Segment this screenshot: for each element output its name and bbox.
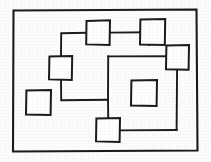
connector-left-loop	[61, 33, 86, 57]
square-top-center	[86, 20, 110, 45]
square-lower-left	[26, 90, 51, 115]
square-bottom-center	[96, 118, 120, 142]
square-center-right	[131, 80, 157, 106]
square-top-right	[140, 19, 165, 45]
connector-left-lower	[61, 80, 108, 101]
hand-drawn-diagram	[0, 0, 211, 162]
square-right	[166, 45, 189, 70]
square-left-middle	[49, 56, 72, 80]
sketch-canvas	[0, 0, 211, 162]
connector-group	[61, 32, 177, 130]
